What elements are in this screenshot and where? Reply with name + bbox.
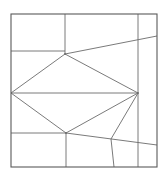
diagram-background (0, 0, 168, 181)
vertex-right-hub-node (137, 92, 139, 94)
diagram-canvas (0, 0, 168, 181)
background-rect (0, 0, 168, 181)
vertex-upper-apex-node (64, 53, 66, 55)
vertex-lower-apex-node (65, 132, 67, 134)
mesh-line-diagram (0, 0, 168, 181)
